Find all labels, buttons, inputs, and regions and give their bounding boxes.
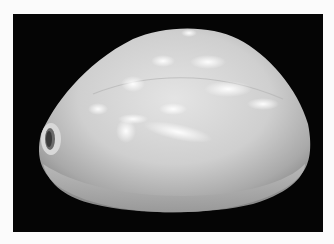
cowrie-shell-image [13, 14, 323, 232]
photo-frame [13, 14, 323, 232]
